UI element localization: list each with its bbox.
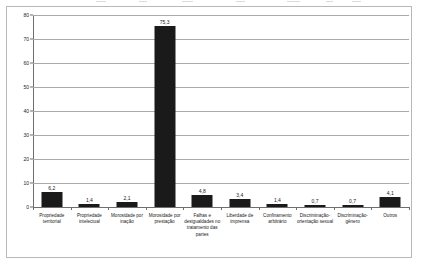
- x-category-label: Outros: [371, 213, 409, 219]
- y-tick-label: 70: [23, 37, 29, 42]
- bar-value-label: 4,1: [387, 190, 394, 196]
- bar[interactable]: [229, 199, 250, 207]
- x-category-label: Confinamento arbitrário: [259, 213, 297, 225]
- bar-group: 1,4: [71, 15, 109, 207]
- x-tick-mark: [221, 207, 222, 210]
- bar-group: 75,3: [146, 15, 184, 207]
- x-tick-mark: [71, 207, 72, 210]
- y-tick-label: 30: [23, 133, 29, 138]
- bar-group: 6,2: [33, 15, 71, 207]
- x-tick-mark: [334, 207, 335, 210]
- x-category-label: Propriedade territorial: [33, 213, 71, 225]
- bar-value-label: 1,4: [86, 197, 93, 203]
- bar-group: 0,7: [334, 15, 372, 207]
- bar[interactable]: [41, 192, 62, 207]
- bar[interactable]: [154, 26, 175, 207]
- y-tick-label: 10: [23, 181, 29, 186]
- bar-group: 3,4: [221, 15, 259, 207]
- bar-value-label: 3,4: [236, 192, 243, 198]
- x-category-label: Propriedade intelectual: [71, 213, 109, 225]
- bar[interactable]: [79, 204, 100, 207]
- x-tick-mark: [371, 207, 372, 210]
- bar-value-label: 4,8: [199, 188, 206, 194]
- bar-chart: 010203040506070806,21,42,175,34,83,41,40…: [6, 6, 412, 258]
- y-tick-label: 50: [23, 85, 29, 90]
- bar-group: 4,8: [183, 15, 221, 207]
- y-tick-label: 20: [23, 157, 29, 162]
- bar-group: 2,1: [108, 15, 146, 207]
- y-tick-label: 40: [23, 109, 29, 114]
- bar-value-label: 1,4: [274, 197, 281, 203]
- x-tick-mark: [33, 207, 34, 210]
- bar[interactable]: [192, 195, 213, 207]
- x-category-label: Morosidade por prestação: [146, 213, 184, 225]
- x-category-label: Discriminação-gênero: [334, 213, 372, 225]
- bar-value-label: 0,7: [312, 198, 319, 204]
- bar-value-label: 0,7: [349, 198, 356, 204]
- plot-area: 010203040506070806,21,42,175,34,83,41,40…: [33, 15, 409, 207]
- x-tick-mark: [108, 207, 109, 210]
- x-tick-mark: [146, 207, 147, 210]
- bar-value-label: 6,2: [48, 185, 55, 191]
- bar[interactable]: [116, 202, 137, 207]
- x-category-label: Liberdade de imprensa: [221, 213, 259, 225]
- bar[interactable]: [267, 204, 288, 207]
- x-tick-mark: [183, 207, 184, 210]
- x-tick-mark: [296, 207, 297, 210]
- bar-group: 0,7: [296, 15, 334, 207]
- bar-value-label: 2,1: [124, 195, 131, 201]
- bar[interactable]: [342, 205, 363, 207]
- y-tick-label: 0: [26, 205, 29, 210]
- y-tick-label: 80: [23, 13, 29, 18]
- x-category-label: Discriminação-orientação sexual: [296, 213, 334, 225]
- x-category-label: Falhas e desigualdades no tratamento das…: [183, 213, 221, 238]
- x-tick-mark: [409, 207, 410, 210]
- x-category-label: Morosidade por inação: [108, 213, 146, 225]
- y-tick-label: 60: [23, 61, 29, 66]
- bar-value-label: 75,3: [160, 19, 170, 25]
- bar-group: 1,4: [259, 15, 297, 207]
- bar-group: 4,1: [371, 15, 409, 207]
- bar[interactable]: [380, 197, 401, 207]
- bar[interactable]: [304, 205, 325, 207]
- x-tick-mark: [259, 207, 260, 210]
